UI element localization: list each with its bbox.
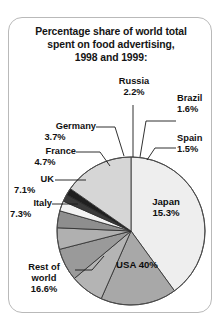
label-spain-name: Spain (177, 133, 221, 144)
label-germany: Germany 3.7% (14, 121, 96, 143)
label-france-name: France (14, 146, 76, 157)
label-italy-name: Italy (10, 198, 52, 209)
label-russia-name: Russia (106, 76, 162, 87)
label-usa-text: USA 40% (104, 259, 170, 270)
label-france: France 4.7% (14, 146, 76, 168)
label-usa: USA 40% (104, 259, 170, 270)
label-spain-value: 1.5% (177, 144, 221, 155)
label-rest-of-world-line-2: world (13, 273, 75, 284)
label-spain: Spain 1.5% (177, 133, 221, 155)
label-rest-of-world-line-1: Rest of (13, 262, 75, 273)
label-brazil: Brazil 1.6% (177, 93, 221, 115)
pie-slices (57, 157, 205, 305)
label-uk-name: UK (14, 174, 54, 185)
label-france-value: 4.7% (14, 157, 76, 168)
label-japan-value: 15.3% (140, 207, 192, 218)
label-russia-value: 2.2% (106, 87, 162, 98)
label-germany-value: 3.7% (14, 132, 96, 143)
leader-line-brazil (140, 121, 176, 157)
label-rest-of-world-value: 16.6% (13, 284, 75, 295)
label-japan: Japan 15.3% (140, 196, 192, 219)
label-uk: UK 7.1% (14, 174, 54, 196)
label-rest-of-world: Rest of world 16.6% (13, 262, 75, 296)
leader-line-spain (147, 148, 176, 160)
label-brazil-value: 1.6% (177, 104, 221, 115)
label-italy-value: 7.3% (10, 209, 52, 220)
label-uk-value: 7.1% (14, 185, 54, 196)
label-russia: Russia 2.2% (106, 76, 162, 98)
label-brazil-name: Brazil (177, 93, 221, 104)
label-japan-name: Japan (140, 196, 192, 207)
label-italy: Italy 7.3% (10, 198, 52, 220)
label-germany-name: Germany (14, 121, 96, 132)
